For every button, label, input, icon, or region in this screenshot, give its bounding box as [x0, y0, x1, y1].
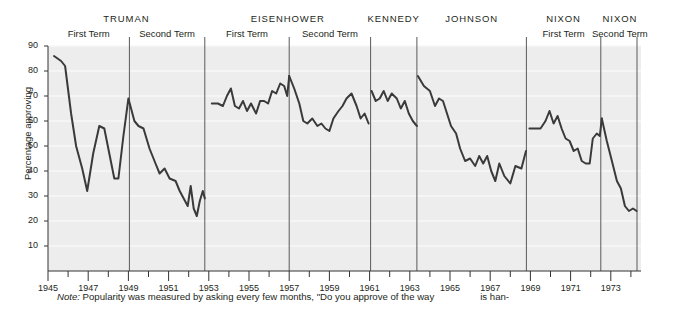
approval-chart-figure: TRUMANEISENHOWERKENNEDYJOHNSONNIXONNIXON…	[0, 0, 674, 314]
y-tick-label: 70	[16, 90, 38, 100]
y-tick-label: 30	[16, 190, 38, 200]
y-tick-label: 90	[16, 40, 38, 50]
x-tick-label: 1969	[510, 283, 550, 293]
chart-svg	[0, 0, 674, 314]
y-tick-label: 50	[16, 140, 38, 150]
x-tick-label: 1973	[591, 283, 631, 293]
plot-background-layer	[48, 46, 641, 271]
y-tick-label: 40	[16, 165, 38, 175]
y-tick-label: 10	[16, 240, 38, 250]
figure-note: Note: Popularity was measured by asking …	[57, 291, 509, 302]
x-tick-label: 1971	[551, 283, 591, 293]
y-tick-label: 20	[16, 215, 38, 225]
y-tick-label: 60	[16, 115, 38, 125]
y-tick-label: 80	[16, 65, 38, 75]
plot-background	[48, 46, 641, 271]
note-label: Note:	[57, 291, 80, 302]
y-axis-title: Percentage approving	[22, 64, 33, 204]
note-body: Popularity was measured by asking every …	[83, 291, 435, 302]
chart-plot-area	[0, 0, 674, 314]
note-body-continued: is han-	[480, 291, 509, 302]
